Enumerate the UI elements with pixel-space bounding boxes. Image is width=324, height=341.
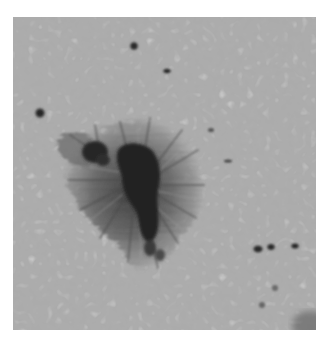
pore	[208, 128, 214, 132]
pore	[290, 243, 300, 250]
pore	[259, 302, 265, 308]
sunspot-image	[13, 17, 316, 330]
pore	[34, 107, 46, 119]
pore	[224, 160, 232, 163]
pore	[272, 285, 278, 291]
pore	[162, 68, 172, 74]
pore	[266, 243, 276, 251]
pore	[252, 245, 264, 254]
pore	[129, 41, 139, 51]
sunspot-photo	[13, 17, 316, 330]
